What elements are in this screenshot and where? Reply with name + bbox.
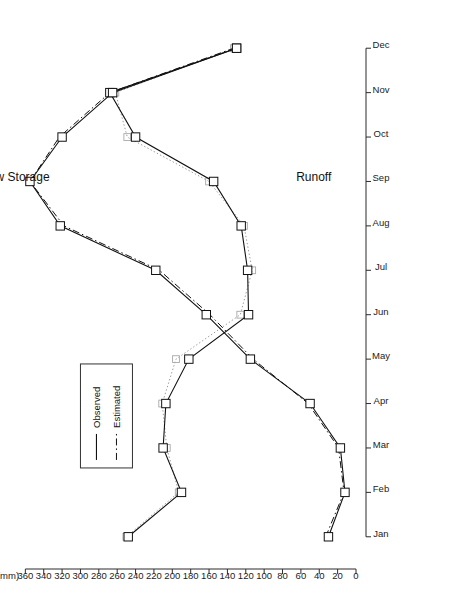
value-axis-label: (mm) bbox=[0, 570, 19, 581]
data-point-marker bbox=[177, 488, 185, 496]
value-tick-label: 120 bbox=[238, 570, 254, 581]
series-line bbox=[30, 48, 344, 537]
month-tick-label: Apr bbox=[374, 395, 389, 406]
series-snow-storage-observed bbox=[26, 44, 349, 541]
chart-svg: 0204060801001201401601802002202402602803… bbox=[0, 0, 420, 615]
data-series-group bbox=[26, 44, 349, 541]
month-tick-label: Jun bbox=[373, 306, 388, 317]
legend-label-observed: Observed bbox=[91, 387, 102, 428]
data-point-marker bbox=[246, 355, 254, 363]
value-tick-label: 260 bbox=[109, 570, 125, 581]
month-tick-label: Oct bbox=[374, 128, 389, 139]
data-point-marker bbox=[108, 88, 116, 96]
data-point-marker bbox=[162, 399, 170, 407]
data-point-marker bbox=[237, 222, 245, 230]
value-tick-label: 100 bbox=[256, 570, 272, 581]
data-point-marker bbox=[336, 444, 344, 452]
value-tick-label: 320 bbox=[54, 570, 70, 581]
data-point-marker-ghost bbox=[237, 311, 244, 318]
legend: ObservedEstimated bbox=[80, 364, 132, 468]
value-tick-label: 280 bbox=[91, 570, 107, 581]
data-point-marker bbox=[185, 355, 193, 363]
value-tick-label: 240 bbox=[128, 570, 144, 581]
plot-area: 0204060801001201401601802002202402602803… bbox=[0, 0, 420, 615]
figure-page: 0204060801001201401601802002202402602803… bbox=[0, 0, 465, 615]
data-point-marker bbox=[131, 133, 139, 141]
data-point-marker bbox=[152, 266, 160, 274]
data-point-marker bbox=[124, 533, 132, 541]
data-point-marker bbox=[209, 177, 217, 185]
month-tick-label: Mar bbox=[373, 439, 389, 450]
month-tick-label: Feb bbox=[373, 483, 389, 494]
value-tick-label: 360 bbox=[17, 570, 33, 581]
value-tick-label: 340 bbox=[36, 570, 52, 581]
series-runoff-estimated bbox=[112, 45, 256, 540]
legend-label-estimated: Estimated bbox=[111, 386, 122, 428]
data-point-marker-ghost bbox=[124, 134, 131, 141]
value-tick-label: 80 bbox=[277, 570, 288, 581]
value-tick-label: 180 bbox=[183, 570, 199, 581]
runoff-label: Runoff bbox=[296, 170, 332, 184]
value-tick-label: 140 bbox=[219, 570, 235, 581]
series-snow-storage-estimated bbox=[30, 48, 344, 537]
month-tick-label: Jan bbox=[373, 528, 388, 539]
series-annotations: Snow StorageRunoff bbox=[0, 170, 332, 184]
data-point-marker bbox=[244, 311, 252, 319]
data-point-marker bbox=[232, 44, 240, 52]
month-tick-label: Nov bbox=[373, 84, 390, 95]
value-tick-label: 40 bbox=[314, 570, 325, 581]
month-tick-label: Sep bbox=[373, 172, 390, 183]
data-point-marker bbox=[243, 266, 251, 274]
data-point-marker bbox=[306, 399, 314, 407]
data-point-marker bbox=[202, 311, 210, 319]
data-point-marker bbox=[324, 533, 332, 541]
value-tick-label: 200 bbox=[164, 570, 180, 581]
month-tick-label: Jul bbox=[375, 261, 387, 272]
value-tick-label: 300 bbox=[73, 570, 89, 581]
legend-box bbox=[80, 364, 132, 468]
value-tick-label: 20 bbox=[332, 570, 343, 581]
value-tick-label: 0 bbox=[353, 570, 358, 581]
snow-storage-label: Snow Storage bbox=[0, 170, 50, 184]
month-tick-label: Aug bbox=[373, 217, 390, 228]
value-tick-label: 160 bbox=[201, 570, 217, 581]
data-point-marker bbox=[56, 222, 64, 230]
data-point-marker bbox=[341, 488, 349, 496]
chart-canvas: 0204060801001201401601802002202402602803… bbox=[0, 0, 420, 615]
month-tick-label: Dec bbox=[373, 39, 390, 50]
value-axis: 0204060801001201401601802002202402602803… bbox=[0, 569, 359, 581]
series-line bbox=[115, 48, 252, 537]
month-axis: JanFebMarAprMayJunJulAugSepOctNovDec bbox=[366, 39, 390, 539]
data-point-marker bbox=[58, 133, 66, 141]
month-tick-label: May bbox=[372, 350, 390, 361]
data-point-marker bbox=[159, 444, 167, 452]
value-tick-label: 60 bbox=[296, 570, 307, 581]
value-tick-label: 220 bbox=[146, 570, 162, 581]
